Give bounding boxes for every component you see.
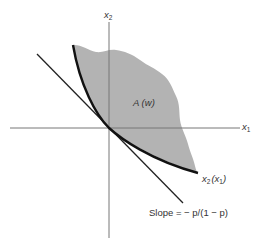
curve-label: x2(x1) [202, 174, 226, 184]
x1-axis-label-sub: 1 [247, 126, 251, 133]
x1-axis-label: x1 [242, 122, 250, 132]
x2-axis-label-sub: 2 [109, 14, 113, 21]
curve-label-sub: 2 [207, 178, 211, 185]
slope-label: Slope = − p/(1 − p) [149, 208, 228, 218]
x2-axis-label: x2 [104, 10, 112, 20]
curve-label-paren-sub: 1 [219, 178, 223, 185]
region-label: A (w) [133, 98, 155, 108]
curve-label-paren-close: ) [223, 173, 226, 184]
